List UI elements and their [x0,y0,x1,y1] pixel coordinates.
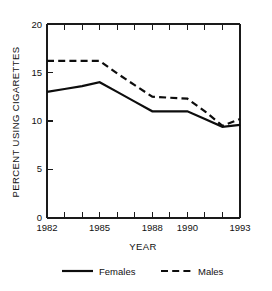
legend-label-females: Females [99,266,136,277]
y-axis-title: PERCENT USING CIGARETTES [10,47,21,198]
x-tick-label-1990: 1990 [177,222,198,233]
x-tick-labels: 1982 1985 1988 1990 1993 [36,222,250,233]
legend-label-males: Males [198,266,224,277]
y-tick-labels: 20 15 10 5 0 [31,19,42,223]
y-tick-label-10: 10 [31,115,42,126]
series-line-females [47,82,240,127]
line-chart: PERCENT USING CIGARETTES 20 15 10 5 0 [0,0,272,291]
y-tick-label-15: 15 [31,67,42,78]
x-tick-label-1985: 1985 [89,222,110,233]
x-tick-label-1982: 1982 [36,222,57,233]
y-tick-label-5: 5 [37,163,42,174]
x-axis-ticks [65,24,223,218]
y-tick-label-20: 20 [31,19,42,30]
chart-legend: Females Males [62,266,224,277]
chart-figure: PERCENT USING CIGARETTES 20 15 10 5 0 [0,0,272,291]
x-tick-label-1993: 1993 [229,222,250,233]
series-line-males [47,61,240,126]
x-tick-label-1988: 1988 [142,222,163,233]
x-axis-title: YEAR [129,241,156,252]
y-axis-ticks [47,25,53,218]
